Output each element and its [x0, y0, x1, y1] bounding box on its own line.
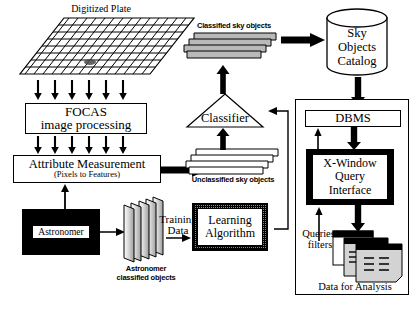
data-for-analysis-label: Data for Analysis [303, 281, 407, 292]
arrow-training-data-to-learning [166, 232, 192, 244]
learning-algorithm-core: Learning Algorithm [197, 208, 263, 246]
classifier-label: Classifier [186, 112, 264, 125]
arrow-classifier-to-classified [216, 64, 230, 94]
arrow-xwindow-to-data [350, 205, 366, 233]
arrows-focas-to-attribute [33, 136, 138, 156]
focas-box[interactable]: FOCAS image processing [25, 103, 147, 134]
digitized-plate-label: Digitized Plate [46, 4, 156, 15]
classified-sky-objects-label: Classified sky objects [180, 22, 288, 30]
attribute-label-line2: (Pixels to Features) [54, 170, 120, 180]
xwindow-label-line3: Interface [329, 184, 372, 197]
dbms-box[interactable]: DBMS [305, 110, 401, 127]
astronomer-classified-objects-label-line2: classified objects [98, 274, 194, 282]
digitized-plate-graphic [18, 16, 196, 78]
learning-algorithm-box[interactable]: Learning Algorithm [192, 203, 268, 251]
arrow-astronomer-to-attribute [58, 183, 72, 209]
sky-catalog-label-line1: Sky [323, 27, 391, 40]
arrows-plate-to-focas [33, 80, 138, 102]
data-for-analysis-graphic [332, 230, 406, 280]
learning-algorithm-stipple-frame: Learning Algorithm [194, 205, 266, 249]
astronomer-box[interactable]: Astronomer [22, 209, 100, 255]
arrow-dbms-to-xwindow [346, 127, 362, 151]
xwindow-label-line2: Query [335, 170, 365, 183]
astronomer-inner-label: Astronomer [32, 225, 90, 239]
dbms-label: DBMS [335, 111, 370, 126]
sky-catalog-label-line3: Catalog [323, 55, 391, 68]
focas-label-line2: image processing [41, 118, 132, 132]
xwindow-inner: X-Window Query Interface [312, 154, 388, 200]
learning-label-line2: Algorithm [205, 227, 255, 240]
classified-sky-objects-graphic [184, 32, 280, 66]
arrow-unclassified-to-classifier [216, 128, 230, 150]
astronomer-label: Astronomer [38, 227, 83, 237]
arrow-classified-to-catalog [281, 32, 327, 48]
astronomer-classified-objects-label-line1: Astronomer [98, 265, 194, 273]
attribute-measurement-box[interactable]: Attribute Measurement (Pixels to Feature… [13, 155, 161, 183]
diagram-canvas: Digitized Plate [0, 0, 414, 315]
sky-catalog-label-line2: Objects [323, 41, 391, 54]
arrow-xwindow-to-dbms [312, 127, 324, 150]
xwindow-query-interface-box[interactable]: X-Window Query Interface [306, 149, 394, 205]
learning-label-line1: Learning [208, 214, 251, 227]
feedback-learning-to-classifier [266, 103, 296, 229]
xwindow-label-line1: X-Window [323, 157, 377, 170]
